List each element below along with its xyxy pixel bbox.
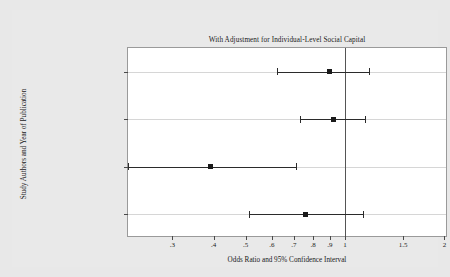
x-axis-tick-label: 2: [443, 241, 447, 249]
point-estimate-marker: [303, 212, 308, 217]
ci-lower-cap: [277, 68, 278, 75]
x-axis-tick: [330, 236, 331, 240]
gridline: [128, 119, 446, 120]
forest-plot-figure: With Adjustment for Individual-Level Soc…: [0, 0, 450, 277]
ci-lower-cap: [128, 163, 129, 170]
ci-upper-cap: [296, 163, 297, 170]
chart-title: With Adjustment for Individual-Level Soc…: [127, 36, 447, 44]
x-axis-tick: [313, 236, 314, 240]
x-axis-title: Odds Ratio and 95% Confidence Interval: [127, 256, 447, 264]
y-axis-tick: [124, 119, 128, 120]
x-axis-tick-label: .4: [211, 241, 216, 249]
ci-upper-cap: [365, 116, 366, 123]
reference-line: [345, 48, 346, 236]
x-axis-tick: [345, 236, 346, 240]
x-axis-tick: [294, 236, 295, 240]
x-axis-tick: [214, 236, 215, 240]
x-axis-tick-label: .5: [243, 241, 248, 249]
confidence-interval-bar: [277, 72, 369, 73]
x-axis-tick-label: .7: [291, 241, 296, 249]
x-axis-tick: [172, 236, 173, 240]
x-axis-tick: [444, 236, 445, 240]
x-axis-tick-label: .8: [310, 241, 315, 249]
y-axis-tick: [124, 167, 128, 168]
x-axis-tick-label: .3: [170, 241, 175, 249]
x-axis-tick: [246, 236, 247, 240]
point-estimate-marker: [327, 69, 332, 74]
figure-canvas: With Adjustment for Individual-Level Soc…: [12, 10, 438, 267]
y-axis-tick: [124, 214, 128, 215]
ci-upper-cap: [369, 68, 370, 75]
x-axis-tick-label: .9: [327, 241, 332, 249]
ci-lower-cap: [300, 116, 301, 123]
point-estimate-marker: [208, 164, 213, 169]
ci-upper-cap: [363, 211, 364, 218]
x-axis-tick-label: 1: [343, 241, 347, 249]
y-axis-tick: [124, 72, 128, 73]
ci-lower-cap: [249, 211, 250, 218]
x-axis-tick-label: .6: [269, 241, 274, 249]
x-axis-tick: [403, 236, 404, 240]
x-axis-tick: [272, 236, 273, 240]
x-axis-tick-label: 1.5: [399, 241, 408, 249]
point-estimate-marker: [331, 117, 336, 122]
y-axis-title: Study Authors and Year of Publication: [20, 69, 28, 219]
plot-area: Subramanian et al., 2002Poortinga, 2006a…: [127, 47, 447, 237]
